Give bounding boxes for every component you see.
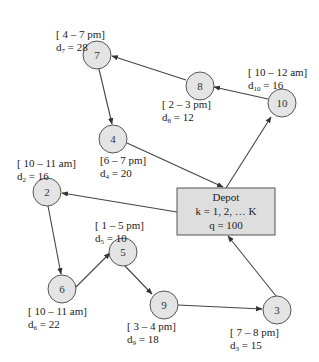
edge-8-7: [112, 56, 186, 80]
depot-vehicles: k = 1, 2, … K: [177, 204, 275, 218]
node-6-annotation: [ 10 – 11 am] d6 = 22: [28, 305, 87, 331]
depot-capacity: q = 100: [177, 218, 275, 232]
edge-3-depot: [228, 236, 276, 296]
demand: d5 = 10: [95, 232, 144, 245]
time-window: [ 1 – 5 pm]: [95, 219, 144, 232]
node-8-annotation: [ 2 – 3 pm] d8 = 12: [162, 98, 211, 124]
node-3-annotation: [ 7 – 8 pm] d3 = 15: [230, 326, 279, 352]
demand: d4 = 20: [100, 167, 146, 180]
demand: d6 = 22: [28, 318, 87, 331]
node-4-annotation: [6 – 7 pm] d4 = 20: [100, 154, 146, 180]
demand: d7 = 28: [56, 41, 105, 54]
time-window: [ 3 – 4 pm]: [127, 320, 176, 333]
time-window: [ 7 – 8 pm]: [230, 326, 279, 339]
edge-5-9: [125, 266, 152, 294]
node-9-id: 9: [150, 299, 178, 311]
time-window: [ 10 – 11 am]: [28, 305, 87, 318]
time-window: [ 10 – 11 am]: [17, 157, 76, 170]
node-8-id: 8: [186, 80, 214, 92]
node-9-annotation: [ 3 – 4 pm] d9 = 18: [127, 320, 176, 346]
node-5-annotation: [ 1 – 5 pm] d5 = 10: [95, 219, 144, 245]
node-2-annotation: [ 10 – 11 am] d2 = 16: [17, 157, 76, 183]
edge-depot-10: [226, 117, 271, 188]
depot-label: Depot k = 1, 2, … K q = 100: [177, 190, 275, 232]
depot-title: Depot: [177, 190, 275, 204]
demand: d3 = 15: [230, 339, 279, 352]
edge-depot-2: [62, 193, 177, 212]
time-window: [ 4 – 7 pm]: [56, 28, 105, 41]
node-5-id: 5: [109, 246, 137, 258]
node-10-annotation: [ 10 – 12 am] d10 = 16: [248, 66, 307, 92]
edge-6-5: [76, 253, 110, 287]
time-window: [ 2 – 3 pm]: [162, 98, 211, 111]
node-3-id: 3: [263, 304, 291, 316]
edge-9-3: [178, 305, 262, 309]
demand: d2 = 16: [17, 170, 76, 183]
node-7-annotation: [ 4 – 7 pm] d7 = 28: [56, 28, 105, 54]
node-6-id: 6: [48, 283, 76, 295]
node-2-id: 2: [33, 186, 61, 198]
time-window: [6 – 7 pm]: [100, 154, 146, 167]
node-10-id: 10: [268, 97, 296, 109]
edge-7-4: [99, 69, 112, 124]
edge-2-6: [48, 206, 61, 274]
time-window: [ 10 – 12 am]: [248, 66, 307, 79]
demand: d9 = 18: [127, 333, 176, 346]
node-4-id: 4: [99, 133, 127, 145]
demand: d8 = 12: [162, 111, 211, 124]
demand: d10 = 16: [248, 79, 307, 92]
